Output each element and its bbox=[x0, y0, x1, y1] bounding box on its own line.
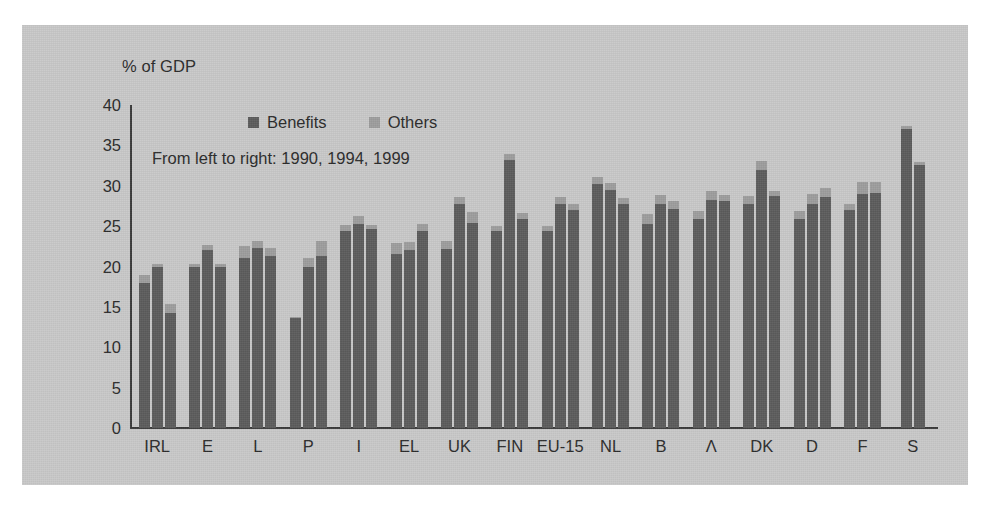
bar-segment-benefits bbox=[467, 223, 478, 428]
x-axis-tick-E: E bbox=[202, 437, 213, 456]
bar-group-FIN: FIN bbox=[485, 105, 535, 428]
bar-P-1990 bbox=[290, 317, 301, 428]
bar-L-1999 bbox=[265, 248, 276, 428]
bar-segment-benefits bbox=[914, 165, 925, 428]
bar-segment-others bbox=[316, 241, 327, 256]
bar-group-P: P bbox=[283, 105, 333, 428]
bar-EL-1994 bbox=[404, 242, 415, 428]
bar-UK-1999 bbox=[467, 212, 478, 428]
bar-F-1994 bbox=[857, 182, 868, 428]
bar-group-E: E bbox=[182, 105, 232, 428]
bar-EL-1999 bbox=[417, 224, 428, 428]
bar-D-1999 bbox=[820, 188, 831, 428]
bar-NL-1994 bbox=[605, 183, 616, 428]
bar-segment-benefits bbox=[441, 249, 452, 428]
bar-group-F: F bbox=[837, 105, 887, 428]
plot-area: 4035302520151050 BenefitsOthers From lef… bbox=[130, 105, 938, 428]
bar-segment-benefits bbox=[605, 190, 616, 428]
bar-L-1990 bbox=[239, 246, 250, 428]
bar-FIN-1994 bbox=[504, 154, 515, 428]
bar-F-1999 bbox=[870, 182, 881, 428]
bar-segment-others bbox=[706, 191, 717, 201]
bar-NL-1999 bbox=[618, 198, 629, 428]
bar-segment-benefits bbox=[769, 196, 780, 428]
bar-F-1990 bbox=[844, 204, 855, 428]
y-axis-tick-40: 40 bbox=[103, 96, 121, 115]
x-axis-tick-I: I bbox=[356, 437, 361, 456]
bar-group-I: I bbox=[334, 105, 384, 428]
bar-segment-benefits bbox=[239, 258, 250, 428]
y-axis-title: % of GDP bbox=[122, 57, 196, 76]
bar-group-EU-15: EU-15 bbox=[535, 105, 585, 428]
bar-segment-others bbox=[417, 224, 428, 231]
bar-segment-others bbox=[870, 182, 881, 193]
bar-Λ-1994 bbox=[706, 191, 717, 428]
bar-segment-benefits bbox=[504, 160, 515, 428]
bar-segment-benefits bbox=[706, 200, 717, 428]
bar-segment-others bbox=[820, 188, 831, 197]
bar-segment-others bbox=[391, 243, 402, 253]
bar-segment-benefits bbox=[265, 256, 276, 428]
bar-segment-benefits bbox=[417, 231, 428, 428]
x-axis-tick-UK: UK bbox=[448, 437, 471, 456]
bar-segment-benefits bbox=[316, 256, 327, 428]
bar-S-1990 bbox=[901, 126, 912, 428]
bar-segment-benefits bbox=[165, 313, 176, 428]
bar-I-1990 bbox=[340, 225, 351, 428]
bar-segment-benefits bbox=[555, 204, 566, 428]
bar-segment-benefits bbox=[870, 193, 881, 428]
bar-B-1990 bbox=[642, 214, 653, 428]
bar-group-UK: UK bbox=[434, 105, 484, 428]
bar-segment-others bbox=[756, 161, 767, 171]
bar-segment-others bbox=[239, 246, 250, 257]
bar-segment-others bbox=[857, 182, 868, 194]
bar-UK-1994 bbox=[454, 197, 465, 428]
bar-segment-benefits bbox=[152, 267, 163, 428]
bar-segment-others bbox=[404, 242, 415, 249]
bar-D-1994 bbox=[807, 194, 818, 428]
bar-segment-others bbox=[693, 211, 704, 219]
bar-segment-benefits bbox=[202, 250, 213, 428]
bar-segment-others bbox=[165, 304, 176, 313]
bar-Λ-1990 bbox=[693, 211, 704, 428]
bar-segment-benefits bbox=[139, 283, 150, 428]
y-axis-tick-20: 20 bbox=[103, 257, 121, 276]
bar-DK-1999 bbox=[769, 191, 780, 428]
x-axis-tick-DK: DK bbox=[750, 437, 773, 456]
bar-segment-benefits bbox=[592, 184, 603, 428]
bar-FIN-1990 bbox=[491, 226, 502, 428]
bar-groups: IRLELPIELUKFINEU-15NLBΛDKDFS bbox=[132, 105, 938, 428]
x-axis-tick-EL: EL bbox=[399, 437, 419, 456]
bar-segment-benefits bbox=[353, 224, 364, 428]
bar-EU-15-1994 bbox=[555, 197, 566, 428]
bar-group-IRL: IRL bbox=[132, 105, 182, 428]
bar-segment-benefits bbox=[668, 209, 679, 428]
y-axis-tick-35: 35 bbox=[103, 136, 121, 155]
y-axis-tick-5: 5 bbox=[112, 378, 121, 397]
bar-segment-benefits bbox=[454, 204, 465, 428]
bar-group-S: S bbox=[888, 105, 938, 428]
x-axis-tick-P: P bbox=[303, 437, 314, 456]
bar-group-NL: NL bbox=[585, 105, 635, 428]
bar-segment-benefits bbox=[693, 219, 704, 428]
bar-UK-1990 bbox=[441, 241, 452, 428]
bar-segment-benefits bbox=[743, 204, 754, 428]
bar-DK-1990 bbox=[743, 196, 754, 428]
y-axis-tick-15: 15 bbox=[103, 297, 121, 316]
y-axis-tick-30: 30 bbox=[103, 176, 121, 195]
bar-segment-benefits bbox=[303, 267, 314, 428]
bar-group-DK: DK bbox=[737, 105, 787, 428]
bar-segment-benefits bbox=[618, 204, 629, 428]
bar-segment-benefits bbox=[366, 229, 377, 428]
bar-segment-benefits bbox=[820, 197, 831, 428]
bar-P-1999 bbox=[316, 241, 327, 428]
bar-segment-benefits bbox=[794, 219, 805, 428]
x-axis-tick-B: B bbox=[655, 437, 666, 456]
bar-segment-others bbox=[555, 197, 566, 204]
bar-segment-others bbox=[605, 183, 616, 190]
bar-segment-others bbox=[441, 241, 452, 248]
bar-segment-benefits bbox=[517, 219, 528, 428]
bar-segment-others bbox=[252, 241, 263, 248]
bar-segment-benefits bbox=[290, 318, 301, 428]
bar-segment-benefits bbox=[252, 248, 263, 428]
